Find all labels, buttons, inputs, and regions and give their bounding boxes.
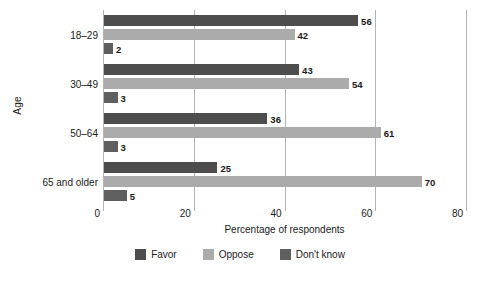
legend-swatch-icon xyxy=(280,249,291,260)
bar-chart: Age 18–29 30–49 50–64 65 and older 56422… xyxy=(0,0,480,287)
bar-oppose xyxy=(104,127,381,138)
legend-item[interactable]: Favor xyxy=(135,249,177,260)
bar-oppose xyxy=(104,78,349,89)
bar-row: 56 xyxy=(104,15,466,26)
bar-group: 25705 xyxy=(104,162,466,201)
bar-value-label: 43 xyxy=(299,64,313,75)
bar-group: 56422 xyxy=(104,15,466,54)
legend-label: Don't know xyxy=(296,249,345,260)
x-tick-label: 20 xyxy=(180,208,191,219)
bar-value-label: 54 xyxy=(349,78,363,89)
bar-row: 54 xyxy=(104,78,466,89)
legend-swatch-icon xyxy=(203,249,214,260)
bar-row: 3 xyxy=(104,141,466,152)
tickmark xyxy=(194,206,195,211)
bar-group: 43543 xyxy=(104,64,466,103)
x-axis-ticks: 020406080 xyxy=(103,206,466,222)
bar-don-t-know xyxy=(104,43,113,54)
bar-value-label: 36 xyxy=(267,113,281,124)
legend: FavorOpposeDon't know xyxy=(0,249,480,260)
bar-favor xyxy=(104,162,217,173)
bar-favor xyxy=(104,64,299,75)
bar-value-label: 3 xyxy=(118,141,126,152)
bar-value-label: 5 xyxy=(127,190,135,201)
bar-row: 70 xyxy=(104,176,466,187)
bar-value-label: 25 xyxy=(217,162,231,173)
x-tick-label: 60 xyxy=(361,208,372,219)
legend-swatch-icon xyxy=(135,249,146,260)
bar-row: 43 xyxy=(104,64,466,75)
bar-don-t-know xyxy=(104,92,118,103)
y-axis-title: Age xyxy=(8,0,26,210)
plot-area: 56422435433661325705 xyxy=(103,10,466,206)
legend-label: Oppose xyxy=(219,249,254,260)
bar-value-label: 70 xyxy=(422,176,436,187)
legend-item[interactable]: Oppose xyxy=(203,249,254,260)
bar-value-label: 56 xyxy=(358,15,372,26)
bar-favor xyxy=(104,113,267,124)
category-label-50-64: 50–64 xyxy=(26,127,98,138)
bar-favor xyxy=(104,15,358,26)
bar-value-label: 3 xyxy=(118,92,126,103)
bar-row: 42 xyxy=(104,29,466,40)
bar-don-t-know xyxy=(104,190,127,201)
x-tick-label: 0 xyxy=(94,208,100,219)
bar-value-label: 61 xyxy=(381,127,395,138)
bar-group: 36613 xyxy=(104,113,466,152)
category-label-18-29: 18–29 xyxy=(26,29,98,40)
bar-row: 3 xyxy=(104,92,466,103)
y-axis-title-text: Age xyxy=(12,96,23,114)
x-tick-label: 40 xyxy=(270,208,281,219)
x-tick-label: 80 xyxy=(452,208,463,219)
category-axis-labels: 18–29 30–49 50–64 65 and older xyxy=(26,10,98,206)
legend-item[interactable]: Don't know xyxy=(280,249,345,260)
bar-row: 2 xyxy=(104,43,466,54)
legend-label: Favor xyxy=(151,249,177,260)
bar-don-t-know xyxy=(104,141,118,152)
bar-oppose xyxy=(104,176,422,187)
bar-row: 36 xyxy=(104,113,466,124)
category-label-65-and-older: 65 and older xyxy=(26,176,98,187)
bar-row: 25 xyxy=(104,162,466,173)
tickmark xyxy=(103,206,104,211)
x-axis-title: Percentage of respondents xyxy=(103,224,466,235)
gridline-80 xyxy=(466,10,467,206)
bar-row: 5 xyxy=(104,190,466,201)
tickmark xyxy=(375,206,376,211)
bar-oppose xyxy=(104,29,295,40)
bar-value-label: 42 xyxy=(295,29,309,40)
category-label-30-49: 30–49 xyxy=(26,78,98,89)
tickmark xyxy=(285,206,286,211)
bar-value-label: 2 xyxy=(113,43,121,54)
bar-row: 61 xyxy=(104,127,466,138)
tickmark xyxy=(466,206,467,211)
